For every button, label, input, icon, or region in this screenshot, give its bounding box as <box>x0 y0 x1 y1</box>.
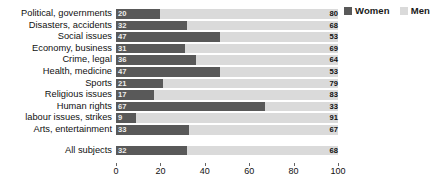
bar-value-women: 9 <box>118 113 122 123</box>
category-label: labour issues, strikes <box>0 112 112 124</box>
bar-track <box>116 55 338 65</box>
chart-row: Disasters, accidents3268 <box>0 20 442 32</box>
bar-segment-women <box>116 102 265 112</box>
bar-segment-men <box>160 9 338 19</box>
bar-track <box>116 67 338 77</box>
bar-value-women: 21 <box>118 79 126 89</box>
chart-row: Political, governments2080 <box>0 8 442 20</box>
bar-segment-men <box>154 90 338 100</box>
bar-segment-women <box>116 125 189 135</box>
bar-track <box>116 9 338 19</box>
bar-segment-women <box>116 146 187 156</box>
bar-segment-women <box>116 21 187 31</box>
bar-value-men: 68 <box>316 21 338 31</box>
bar-track <box>116 90 338 100</box>
category-label: Economy, business <box>0 43 112 55</box>
x-axis-tick-label: 40 <box>200 166 210 176</box>
bar-value-women: 67 <box>118 102 126 112</box>
bar-value-women: 31 <box>118 44 126 54</box>
category-label: Sports <box>0 78 112 90</box>
bar-value-women: 47 <box>118 67 126 77</box>
bar-value-women: 20 <box>118 9 126 19</box>
bar-segment-women <box>116 55 196 65</box>
bar-value-women: 47 <box>118 32 126 42</box>
bar-track <box>116 21 338 31</box>
bar-value-men: 91 <box>316 113 338 123</box>
bar-value-men: 53 <box>316 67 338 77</box>
bar-value-women: 33 <box>118 125 126 135</box>
chart-row: Religious issues1783 <box>0 89 442 101</box>
category-label: Political, governments <box>0 8 112 20</box>
category-label: Crime, legal <box>0 54 112 66</box>
x-axis-tick-label: 20 <box>155 166 165 176</box>
category-label: Social issues <box>0 31 112 43</box>
x-axis-tick-label: 100 <box>330 166 345 176</box>
bar-track <box>116 102 338 112</box>
stacked-bar-chart: Women Men Political, governments2080Disa… <box>0 0 442 182</box>
category-label: Health, medicine <box>0 66 112 78</box>
chart-row: Human rights6733 <box>0 101 442 113</box>
x-axis-tick-label: 60 <box>244 166 254 176</box>
chart-row: Crime, legal3664 <box>0 54 442 66</box>
bar-value-men: 79 <box>316 79 338 89</box>
bar-value-men: 33 <box>316 102 338 112</box>
bar-value-women: 36 <box>118 55 126 65</box>
bar-value-women: 32 <box>118 21 126 31</box>
chart-row: Health, medicine4753 <box>0 66 442 78</box>
x-axis: 020406080100 <box>116 166 338 180</box>
bar-segment-women <box>116 32 220 42</box>
bar-value-women: 32 <box>118 146 126 156</box>
category-label: All subjects <box>0 145 112 157</box>
bar-value-men: 83 <box>316 90 338 100</box>
bar-track <box>116 44 338 54</box>
bar-segment-men <box>163 79 338 89</box>
bar-value-men: 68 <box>316 146 338 156</box>
chart-row: All subjects3268 <box>0 145 442 157</box>
bar-track <box>116 125 338 135</box>
bar-track <box>116 113 338 123</box>
category-label: Arts, entertainment <box>0 124 112 136</box>
bar-segment-men <box>185 44 338 54</box>
category-label: Disasters, accidents <box>0 20 112 32</box>
bar-track <box>116 79 338 89</box>
category-label: Human rights <box>0 101 112 113</box>
bar-segment-women <box>116 67 220 77</box>
bar-value-men: 64 <box>316 55 338 65</box>
chart-row: Social issues4753 <box>0 31 442 43</box>
bar-track <box>116 32 338 42</box>
row-spacer <box>0 136 442 145</box>
chart-rows: Political, governments2080Disasters, acc… <box>0 8 442 156</box>
bar-value-men: 80 <box>316 9 338 19</box>
bar-segment-men <box>136 113 338 123</box>
x-axis-tick-label: 80 <box>289 166 299 176</box>
category-label: Religious issues <box>0 89 112 101</box>
bar-track <box>116 146 338 156</box>
x-axis-tick-label: 0 <box>113 166 118 176</box>
bar-value-women: 17 <box>118 90 126 100</box>
bar-value-men: 53 <box>316 32 338 42</box>
chart-row: Sports2179 <box>0 78 442 90</box>
chart-row: labour issues, strikes991 <box>0 112 442 124</box>
chart-row: Economy, business3169 <box>0 43 442 55</box>
bar-value-men: 69 <box>316 44 338 54</box>
bar-value-men: 67 <box>316 125 338 135</box>
chart-row: Arts, entertainment3367 <box>0 124 442 136</box>
